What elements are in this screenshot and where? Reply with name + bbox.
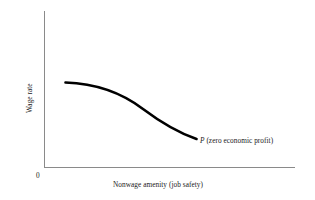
curve-annotation-text: (zero economic profit) — [205, 136, 274, 145]
chart-figure: Wage rate Nonwage amenity (job safety) 0… — [0, 0, 315, 200]
origin-label: 0 — [36, 172, 40, 179]
x-axis-label: Nonwage amenity (job safety) — [113, 181, 203, 188]
curve-annotation: P (zero economic profit) — [200, 137, 273, 144]
zero-profit-curve — [66, 83, 197, 140]
plot-area — [0, 0, 315, 200]
y-axis-label: Wage rate — [26, 83, 33, 113]
